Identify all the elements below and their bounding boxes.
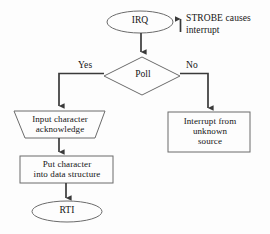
edge-poll-no	[180, 74, 208, 109]
edge-poll-yes	[59, 74, 104, 107]
node-label-input-character: Input character acknowledge	[16, 114, 104, 134]
node-label-poll: Poll	[110, 69, 176, 80]
node-label-rti: RTI	[34, 205, 100, 216]
flowchart-canvas: IRQ Poll Input character acknowledge Put…	[0, 0, 270, 234]
node-label-put-character: Put character into data structure	[21, 159, 113, 179]
strobe-note: STROBE causes interrupt	[186, 13, 270, 37]
node-label-interrupt-unknown: Interrupt from unknown source	[170, 116, 250, 146]
edge-label-yes: Yes	[78, 60, 92, 70]
node-label-irq: IRQ	[107, 15, 173, 26]
edge-label-no: No	[186, 60, 198, 70]
